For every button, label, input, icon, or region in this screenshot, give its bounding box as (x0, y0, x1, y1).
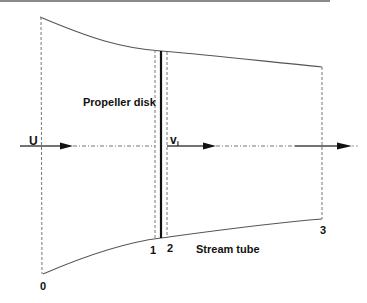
induced-velocity-subscript: i (177, 139, 179, 148)
induced-velocity-symbol: v (170, 133, 177, 147)
stream-tube-label: Stream tube (196, 244, 260, 255)
induced-velocity-label: vi (170, 134, 179, 148)
propeller-stream-tube-diagram: U Propeller disk vi Stream tube 0 1 2 3 (0, 0, 367, 303)
station-1-label: 1 (150, 245, 156, 256)
arrow-head-icon (60, 143, 73, 150)
station-0-label: 0 (40, 281, 46, 292)
propeller-disk-label: Propeller disk (83, 97, 156, 108)
stream-tube-upper-boundary (40, 17, 322, 67)
arrow-head-icon (337, 143, 352, 150)
station-2-label: 2 (167, 243, 173, 254)
diagram-canvas (0, 0, 367, 303)
stream-tube-lower-boundary (43, 219, 322, 274)
freestream-velocity-label: U (29, 135, 38, 147)
station-3-label: 3 (320, 225, 326, 236)
arrow-head-icon (203, 143, 216, 150)
